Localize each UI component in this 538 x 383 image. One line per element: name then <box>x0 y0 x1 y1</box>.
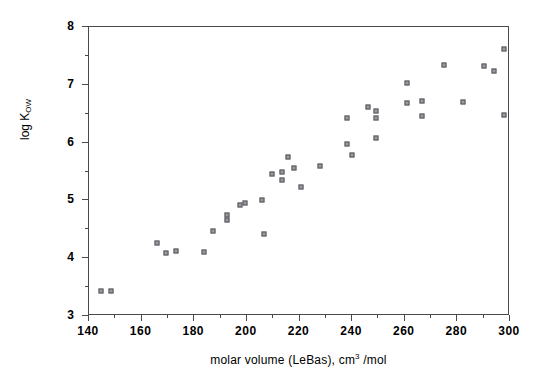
x-tick-major <box>246 315 247 321</box>
y-tick-minor <box>85 55 88 56</box>
y-tick-major <box>82 142 88 143</box>
plot-area: 140160180200220240260280300345678 <box>88 26 509 315</box>
data-point-marker <box>163 251 168 256</box>
data-point-marker <box>243 200 248 205</box>
y-tick-minor <box>85 171 88 172</box>
x-tick-label: 180 <box>182 324 204 338</box>
y-tick-major <box>82 84 88 85</box>
y-tick-major <box>82 257 88 258</box>
x-tick-label: 200 <box>235 324 257 338</box>
x-tick-label: 280 <box>446 324 468 338</box>
data-point-marker <box>374 115 379 120</box>
data-point-marker <box>261 232 266 237</box>
y-tick-label: 5 <box>67 192 74 206</box>
x-tick-minor <box>483 315 484 318</box>
y-tick-major <box>82 315 88 316</box>
x-tick-label: 240 <box>340 324 362 338</box>
data-point-marker <box>224 218 229 223</box>
data-point-marker <box>366 104 371 109</box>
y-tick-minor <box>85 113 88 114</box>
x-tick-minor <box>167 315 168 318</box>
y-axis-title-subscript: OW <box>24 99 33 113</box>
data-point-marker <box>211 229 216 234</box>
x-tick-major <box>299 315 300 321</box>
y-tick-label: 8 <box>67 19 74 33</box>
data-point-marker <box>202 249 207 254</box>
data-point-marker <box>502 46 507 51</box>
y-axis-title-main: log K <box>18 113 32 140</box>
data-point-marker <box>461 99 466 104</box>
data-point-marker <box>260 197 265 202</box>
x-tick-major <box>193 315 194 321</box>
y-tick-minor <box>85 228 88 229</box>
data-point-marker <box>374 136 379 141</box>
data-point-marker <box>502 113 507 118</box>
data-point-marker <box>292 166 297 171</box>
data-point-marker <box>481 63 486 68</box>
y-tick-minor <box>85 286 88 287</box>
x-tick-major <box>351 315 352 321</box>
x-tick-minor <box>430 315 431 318</box>
x-tick-minor <box>114 315 115 318</box>
data-point-marker <box>420 99 425 104</box>
x-tick-label: 220 <box>288 324 310 338</box>
x-tick-minor <box>220 315 221 318</box>
data-point-marker <box>98 289 103 294</box>
data-point-marker <box>345 116 350 121</box>
y-tick-major <box>82 199 88 200</box>
x-axis-title-main: molar volume (LeBas), cm <box>210 353 355 367</box>
data-point-marker <box>286 154 291 159</box>
axis-top <box>88 26 509 27</box>
data-point-marker <box>298 184 303 189</box>
x-tick-label: 140 <box>77 324 99 338</box>
data-point-marker <box>154 241 159 246</box>
y-tick-label: 6 <box>67 135 74 149</box>
x-tick-major <box>509 315 510 321</box>
data-point-marker <box>374 108 379 113</box>
x-axis-title-tail: /mol <box>360 353 387 367</box>
y-tick-major <box>82 26 88 27</box>
axis-left <box>88 26 89 315</box>
data-point-marker <box>108 288 113 293</box>
x-tick-label: 160 <box>130 324 152 338</box>
x-tick-minor <box>272 315 273 318</box>
x-tick-major <box>141 315 142 321</box>
scatter-plot-figure: 140160180200220240260280300345678 molar … <box>0 0 538 383</box>
data-point-marker <box>279 170 284 175</box>
y-tick-label: 4 <box>67 250 74 264</box>
data-point-marker <box>420 113 425 118</box>
x-tick-minor <box>377 315 378 318</box>
data-point-marker <box>404 100 409 105</box>
data-point-marker <box>345 142 350 147</box>
data-point-marker <box>279 178 284 183</box>
x-tick-major <box>456 315 457 321</box>
data-point-marker <box>350 152 355 157</box>
x-axis-title: molar volume (LeBas), cm3 /mol <box>88 352 509 367</box>
data-point-marker <box>405 81 410 86</box>
y-tick-label: 3 <box>67 308 74 322</box>
data-point-marker <box>269 171 274 176</box>
axis-right <box>508 26 509 315</box>
data-point-marker <box>491 69 496 74</box>
x-tick-label: 300 <box>498 324 520 338</box>
x-tick-minor <box>325 315 326 318</box>
data-point-marker <box>173 248 178 253</box>
x-tick-label: 260 <box>393 324 415 338</box>
x-tick-major <box>88 315 89 321</box>
y-tick-label: 7 <box>67 77 74 91</box>
x-tick-major <box>404 315 405 321</box>
y-axis-title: log KOW <box>18 99 32 140</box>
data-point-marker <box>442 63 447 68</box>
data-point-marker <box>318 164 323 169</box>
